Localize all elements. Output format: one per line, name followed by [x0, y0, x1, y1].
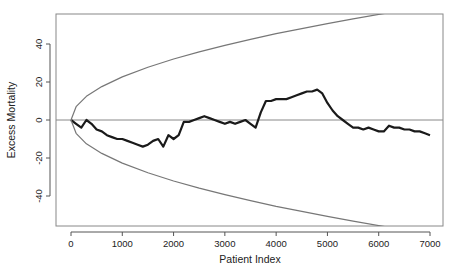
y-axis: -40-2002040	[33, 39, 50, 203]
x-tick-label: 2000	[163, 238, 184, 249]
y-tick-label: 20	[33, 77, 44, 88]
x-tick-label: 3000	[214, 238, 235, 249]
excess-mortality-line	[71, 90, 430, 147]
y-tick-label: 0	[33, 117, 44, 122]
x-tick-label: 4000	[266, 238, 287, 249]
y-tick-label: -40	[33, 189, 44, 203]
upper-boundary-line	[71, 13, 389, 120]
x-axis: 01000200030004000500060007000	[68, 232, 440, 249]
lower-boundary-line	[71, 120, 389, 227]
chart: 01000200030004000500060007000 -40-200204…	[0, 0, 463, 271]
x-tick-label: 5000	[317, 238, 338, 249]
y-axis-title: Excess Mortality	[5, 81, 17, 158]
y-tick-label: 40	[33, 39, 44, 50]
y-tick-label: -20	[33, 151, 44, 165]
x-tick-label: 1000	[112, 238, 133, 249]
x-tick-label: 6000	[368, 238, 389, 249]
x-tick-label: 0	[68, 238, 73, 249]
x-axis-title: Patient Index	[219, 253, 281, 265]
x-tick-label: 7000	[419, 238, 440, 249]
